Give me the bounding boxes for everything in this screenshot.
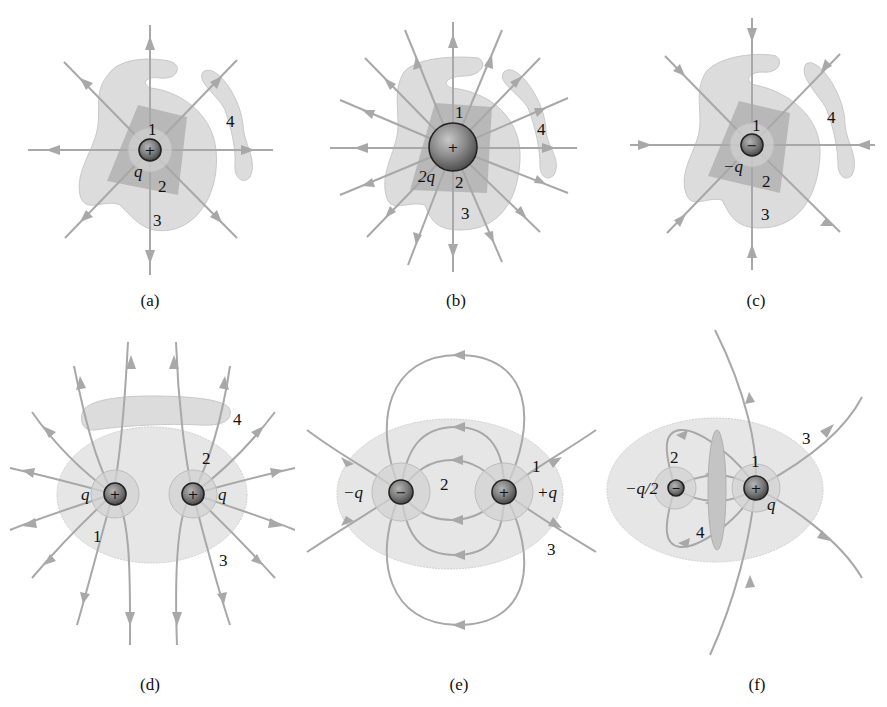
charge-label: −q xyxy=(723,157,743,176)
surface-label-3: 3 xyxy=(219,551,228,570)
surface-label-4: 4 xyxy=(233,410,242,429)
panel-e: − + −q +q 1 2 3 (e) xyxy=(307,350,596,694)
surface-label-2: 2 xyxy=(670,448,679,467)
gaussian-surface-4 xyxy=(82,396,231,430)
panel-f: − + −q/2 q 1 2 3 4 (f) xyxy=(607,330,862,694)
charge-label-negative: −q/2 xyxy=(625,479,659,498)
charge-label-negative: −q xyxy=(343,483,363,502)
surface-label-1: 1 xyxy=(148,120,157,139)
plus-sign-icon: + xyxy=(110,487,121,502)
panel-caption: (c) xyxy=(747,291,766,310)
plus-sign-icon: + xyxy=(751,481,762,496)
surface-label-2: 2 xyxy=(202,449,211,468)
plus-sign-icon: + xyxy=(145,143,156,158)
panel-b: + 1 2q 2 3 4 (b) xyxy=(330,22,577,310)
surface-label-3: 3 xyxy=(547,540,556,559)
charge-label-left: q xyxy=(81,485,90,504)
surface-label-1: 1 xyxy=(455,103,464,122)
panel-caption: (f) xyxy=(749,675,766,694)
surface-label-3: 3 xyxy=(461,204,470,223)
charge-label: q xyxy=(134,162,143,181)
panel-d: + + q q 1 2 3 4 (d) xyxy=(10,342,295,694)
surface-label-4: 4 xyxy=(226,112,235,131)
charge-label-right: q xyxy=(218,485,227,504)
surface-label-4: 4 xyxy=(827,108,836,127)
charge-label-positive: q xyxy=(767,495,776,514)
gauss-law-figure: + 1 q 2 3 4 (a) xyxy=(0,0,887,707)
surface-label-3: 3 xyxy=(802,429,811,448)
plus-sign-icon: + xyxy=(188,487,199,502)
plus-sign-icon: + xyxy=(499,485,510,500)
panel-caption: (b) xyxy=(446,291,466,310)
surface-label-2: 2 xyxy=(455,173,464,192)
surface-label-1: 1 xyxy=(752,116,761,135)
minus-sign-icon: − xyxy=(747,138,758,153)
charge-label: 2q xyxy=(418,167,436,186)
panel-a: + 1 q 2 3 4 (a) xyxy=(28,25,273,310)
minus-sign-icon: − xyxy=(396,485,407,500)
panel-caption: (a) xyxy=(141,291,160,310)
surface-label-4: 4 xyxy=(696,523,705,542)
surface-label-2: 2 xyxy=(440,475,449,494)
surface-label-1: 1 xyxy=(93,527,102,546)
surface-label-1: 1 xyxy=(751,452,760,471)
surface-label-2: 2 xyxy=(158,177,167,196)
plus-sign-icon: + xyxy=(448,140,459,155)
panel-c: − 1 −q 2 3 4 (c) xyxy=(630,18,875,310)
charge-label-positive: +q xyxy=(537,483,557,502)
surface-label-4: 4 xyxy=(537,120,546,139)
surface-label-3: 3 xyxy=(761,205,770,224)
surface-label-2: 2 xyxy=(762,172,771,191)
surface-label-3: 3 xyxy=(153,211,162,230)
minus-sign-icon: − xyxy=(671,482,680,495)
surface-label-1: 1 xyxy=(532,457,541,476)
panel-caption: (e) xyxy=(450,675,469,694)
panel-caption: (d) xyxy=(140,675,160,694)
gaussian-surface-4 xyxy=(708,430,726,550)
